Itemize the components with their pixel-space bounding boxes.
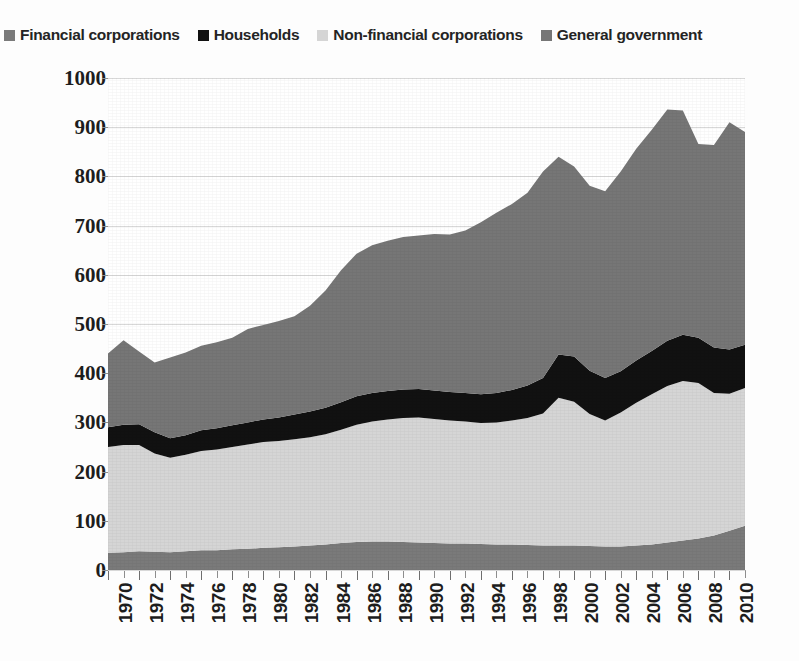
x-tick-label: 1970	[115, 583, 137, 623]
square-swatch-icon	[541, 30, 552, 41]
x-tick-mark	[512, 571, 513, 580]
x-tick-mark	[201, 571, 202, 580]
x-tick-label: 1974	[177, 583, 199, 623]
x-tick-mark	[465, 571, 466, 578]
x-tick-mark	[745, 571, 746, 578]
y-tick-label: 200	[10, 459, 106, 484]
x-tick-label: 1982	[301, 583, 323, 623]
x-tick-mark	[714, 571, 715, 578]
legend-item: Non-financial corporations	[317, 26, 522, 44]
x-tick-mark	[527, 571, 528, 578]
legend-item-label: Non-financial corporations	[333, 26, 522, 44]
x-tick-mark	[434, 571, 435, 578]
x-tick-label: 1984	[333, 583, 355, 623]
x-axis-line	[108, 570, 746, 571]
x-tick-label: 1994	[488, 583, 510, 623]
x-tick-mark	[543, 571, 544, 580]
x-tick-label: 2000	[581, 583, 603, 623]
x-tick-mark	[232, 571, 233, 580]
x-tick-label: 1980	[270, 583, 292, 623]
y-tick-label: 500	[10, 312, 106, 337]
x-tick-mark	[372, 571, 373, 578]
x-tick-mark	[683, 571, 684, 578]
y-tick-label: 300	[10, 410, 106, 435]
y-tick-label: 700	[10, 213, 106, 238]
x-tick-mark	[310, 571, 311, 578]
x-tick-label: 1978	[239, 583, 261, 623]
x-tick-mark	[155, 571, 156, 578]
x-tick-mark	[652, 571, 653, 578]
x-tick-label: 2002	[612, 583, 634, 623]
x-tick-mark	[729, 571, 730, 580]
x-tick-mark	[496, 571, 497, 578]
x-tick-mark	[326, 571, 327, 580]
x-tick-mark	[636, 571, 637, 580]
x-tick-mark	[217, 571, 218, 578]
x-tick-mark	[403, 571, 404, 578]
y-tick-label: 800	[10, 164, 106, 189]
x-tick-label: 1996	[519, 583, 541, 623]
legend-item: Households	[198, 26, 300, 44]
stacked-area-series	[108, 78, 745, 570]
x-tick-mark	[698, 571, 699, 580]
x-tick-mark	[186, 571, 187, 578]
x-tick-mark	[341, 571, 342, 578]
y-axis-labels: 10009008007006005004003002001000	[0, 0, 106, 661]
x-tick-label: 2010	[736, 583, 758, 623]
x-tick-label: 1986	[364, 583, 386, 623]
x-tick-mark	[248, 571, 249, 578]
x-tick-label: 1992	[457, 583, 479, 623]
x-tick-mark	[481, 571, 482, 580]
x-tick-mark	[170, 571, 171, 580]
x-tick-mark	[574, 571, 575, 580]
x-tick-mark	[605, 571, 606, 580]
x-tick-label: 1998	[550, 583, 572, 623]
x-tick-label: 1976	[208, 583, 230, 623]
y-tick-label: 100	[10, 508, 106, 533]
x-tick-label: 2004	[643, 583, 665, 623]
x-tick-label: 2006	[674, 583, 696, 623]
x-tick-mark	[357, 571, 358, 580]
y-tick-label: 900	[10, 115, 106, 140]
square-swatch-icon	[317, 30, 328, 41]
y-tick-label: 600	[10, 262, 106, 287]
x-tick-mark	[263, 571, 264, 580]
x-tick-label: 1990	[426, 583, 448, 623]
x-tick-mark	[590, 571, 591, 578]
chart-root: Financial corporationsHouseholdsNon-fina…	[0, 0, 799, 661]
y-tick-label: 400	[10, 361, 106, 386]
x-tick-mark	[139, 571, 140, 580]
x-tick-mark	[108, 571, 109, 580]
legend-item: General government	[541, 26, 702, 44]
plot-area	[108, 78, 745, 570]
square-swatch-icon	[198, 30, 209, 41]
x-tick-mark	[419, 571, 420, 580]
x-tick-mark	[279, 571, 280, 578]
x-tick-mark	[621, 571, 622, 578]
x-tick-label: 1972	[146, 583, 168, 623]
y-tick-label: 0	[10, 558, 106, 583]
x-tick-mark	[667, 571, 668, 580]
legend-item-label: General government	[557, 26, 702, 44]
x-tick-label: 1988	[395, 583, 417, 623]
x-tick-mark	[559, 571, 560, 578]
x-tick-mark	[294, 571, 295, 580]
chart-legend: Financial corporationsHouseholdsNon-fina…	[4, 22, 796, 48]
x-tick-mark	[450, 571, 451, 580]
x-tick-label: 2008	[705, 583, 727, 623]
legend-item-label: Households	[214, 26, 300, 44]
x-tick-mark	[124, 571, 125, 578]
x-tick-mark	[388, 571, 389, 580]
y-tick-label: 1000	[10, 66, 106, 91]
